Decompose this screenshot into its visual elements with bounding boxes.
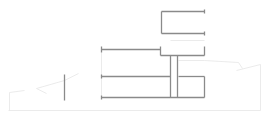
building-outline-lines bbox=[65, 10, 205, 101]
section-drawing-canvas bbox=[0, 0, 265, 116]
terrain-right-a bbox=[205, 61, 239, 63]
architectural-section-drawing bbox=[0, 0, 265, 116]
terrain-left-d bbox=[65, 74, 79, 81]
terrain-right-b bbox=[239, 63, 243, 69]
terrain-left-c bbox=[37, 89, 47, 94]
terrain-left-a bbox=[10, 91, 25, 93]
terrain-left-b bbox=[37, 81, 65, 89]
faint-context-lines bbox=[9, 41, 261, 111]
